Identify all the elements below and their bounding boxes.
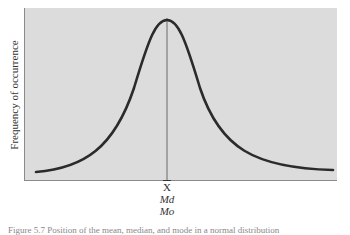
- y-axis-label: Frequency of occurrence: [8, 40, 20, 149]
- median-label: Md: [147, 193, 187, 205]
- normal-curve: [24, 8, 336, 180]
- figure-caption: Figure 5.7 Position of the mean, median,…: [8, 225, 348, 235]
- center-labels: X Md Mo: [147, 181, 187, 217]
- mean-label: X: [147, 181, 187, 193]
- bell-curve: [36, 20, 333, 172]
- mode-label: Mo: [147, 205, 187, 217]
